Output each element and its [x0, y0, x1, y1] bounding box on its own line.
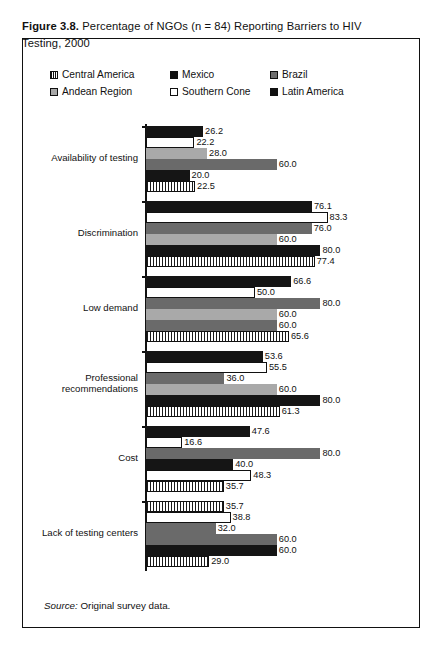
bar-value-label: 80.0 — [320, 245, 340, 256]
bar-mexico — [146, 545, 277, 556]
bar-value-label: 60.0 — [277, 320, 297, 331]
bar-value-label: 35.7 — [224, 481, 244, 492]
swatch-andean-region-icon — [50, 88, 58, 96]
swatch-central-america-icon — [50, 71, 58, 79]
bar-value-label: 61.3 — [280, 406, 300, 417]
bar-group-bars: 76.183.376.060.080.077.4 — [146, 201, 378, 267]
source-text: Original survey data. — [81, 600, 171, 611]
bar-group-bars: 26.222.228.060.020.022.5 — [146, 126, 378, 192]
bar-mexico — [146, 245, 320, 256]
bar-southern-cone — [146, 212, 328, 223]
bar-group-bars: 35.738.832.060.060.029.0 — [146, 501, 378, 567]
bar-central-america — [146, 556, 209, 567]
bar-row: 32.0 — [146, 523, 378, 534]
bar-group: Lack of testing centers35.738.832.060.06… — [20, 501, 378, 567]
bar-value-label: 66.6 — [291, 276, 311, 287]
bar-central-america — [146, 331, 289, 342]
bar-row: 28.0 — [146, 148, 378, 159]
legend-item-southern-cone: Southern Cone — [170, 85, 270, 98]
bar-row: 36.0 — [146, 373, 378, 384]
bar-chart-plot: Availability of testing26.222.228.060.02… — [20, 122, 378, 554]
bar-row: 77.4 — [146, 256, 378, 267]
bar-brazil — [146, 534, 277, 545]
chart-legend: Central America Mexico Brazil Andean Reg… — [50, 68, 350, 102]
bar-value-label: 60.0 — [277, 309, 297, 320]
legend-item-mexico: Mexico — [170, 68, 270, 81]
bar-value-label: 80.0 — [320, 395, 340, 406]
bar-row: 60.0 — [146, 234, 378, 245]
bar-value-label: 16.6 — [182, 437, 202, 448]
bar-row: 83.3 — [146, 212, 378, 223]
bar-value-label: 60.0 — [277, 545, 297, 556]
legend-item-latin-america: Latin America — [270, 85, 344, 98]
figure-page: Figure 3.8. Percentage of NGOs (n = 84) … — [0, 0, 444, 667]
source-note: Source: Original survey data. — [44, 600, 170, 611]
bar-andean-region — [146, 223, 312, 234]
bar-southern-cone — [146, 137, 194, 148]
bar-row: 60.0 — [146, 320, 378, 331]
legend-item-central-america: Central America — [50, 68, 170, 81]
bar-row: 65.6 — [146, 331, 378, 342]
bar-group: Availability of testing26.222.228.060.02… — [20, 126, 378, 192]
bar-brazil — [146, 159, 277, 170]
bar-value-label: 29.0 — [209, 556, 229, 567]
legend-row-1: Central America Mexico Brazil — [50, 68, 350, 81]
bar-group-bars: 47.616.680.040.048.335.7 — [146, 426, 378, 492]
bar-value-label: 80.0 — [320, 448, 340, 459]
legend-item-brazil: Brazil — [270, 68, 307, 81]
bar-value-label: 26.2 — [203, 126, 223, 137]
bar-row: 80.0 — [146, 298, 378, 309]
bar-value-label: 80.0 — [320, 298, 340, 309]
bar-value-label: 65.6 — [289, 331, 309, 342]
bar-value-label: 32.0 — [216, 523, 236, 534]
bar-value-label: 76.0 — [312, 223, 332, 234]
bar-row: 60.0 — [146, 545, 378, 556]
bar-andean-region — [146, 373, 224, 384]
bar-andean-region — [146, 448, 320, 459]
legend-label-brazil: Brazil — [282, 68, 307, 81]
bar-row: 20.0 — [146, 170, 378, 181]
bar-mexico — [146, 470, 251, 481]
bar-value-label: 28.0 — [207, 148, 227, 159]
bar-value-label: 83.3 — [328, 212, 348, 223]
swatch-mexico-icon — [170, 71, 178, 79]
legend-label-mexico: Mexico — [182, 68, 214, 81]
bar-mexico — [146, 320, 277, 331]
legend-item-andean-region: Andean Region — [50, 85, 170, 98]
bar-row: 55.5 — [146, 362, 378, 373]
bar-andean-region — [146, 148, 207, 159]
bar-value-label: 22.2 — [194, 137, 214, 148]
bar-central-america — [146, 256, 315, 267]
swatch-southern-cone-icon — [170, 88, 178, 96]
bar-value-label: 60.0 — [277, 234, 297, 245]
legend-label-latin-america: Latin America — [282, 85, 344, 98]
bar-row: 76.1 — [146, 201, 378, 212]
bar-row: 66.6 — [146, 276, 378, 287]
bar-brazil — [146, 309, 277, 320]
bar-row: 40.0 — [146, 459, 378, 470]
bar-row: 60.0 — [146, 384, 378, 395]
bar-group: Discrimination76.183.376.060.080.077.4 — [20, 201, 378, 267]
figure-title: Figure 3.8. Percentage of NGOs (n = 84) … — [22, 18, 374, 51]
bar-central-america — [146, 481, 224, 492]
bar-row: 26.2 — [146, 126, 378, 137]
category-label: Discrimination — [20, 227, 138, 239]
bar-row: 29.0 — [146, 556, 378, 567]
bar-value-label: 50.0 — [255, 287, 275, 298]
bar-row: 50.0 — [146, 287, 378, 298]
category-label: Professionalrecommendations — [20, 372, 138, 395]
category-label: Low demand — [20, 302, 138, 314]
legend-row-2: Andean Region Southern Cone Latin Americ… — [50, 85, 350, 98]
bar-row: 22.5 — [146, 181, 378, 192]
bar-value-label: 60.0 — [277, 384, 297, 395]
bar-row: 53.6 — [146, 351, 378, 362]
bar-row: 60.0 — [146, 159, 378, 170]
bar-value-label: 38.8 — [231, 512, 251, 523]
bar-row: 80.0 — [146, 395, 378, 406]
bar-row: 35.7 — [146, 481, 378, 492]
bar-row: 76.0 — [146, 223, 378, 234]
legend-label-andean-region: Andean Region — [62, 85, 132, 98]
bar-southern-cone — [146, 287, 255, 298]
bar-brazil — [146, 384, 277, 395]
bar-row: 22.2 — [146, 137, 378, 148]
